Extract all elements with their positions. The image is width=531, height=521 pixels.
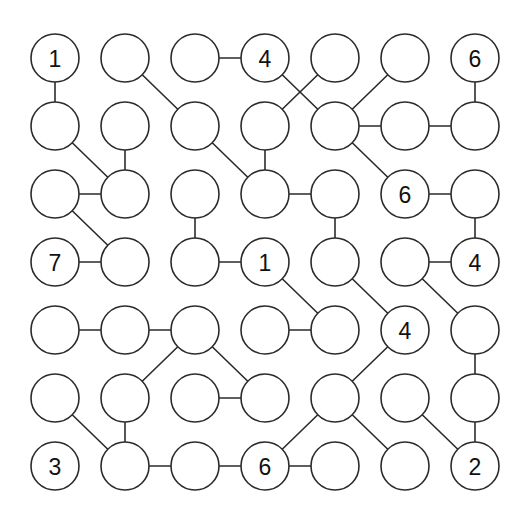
graph-node[interactable]: [101, 306, 149, 354]
node-circle[interactable]: [451, 102, 499, 150]
graph-node[interactable]: [171, 442, 219, 490]
graph-node[interactable]: [31, 374, 79, 422]
graph-node[interactable]: [241, 374, 289, 422]
graph-node[interactable]: 4: [241, 34, 289, 82]
graph-node[interactable]: [311, 34, 359, 82]
node-circle[interactable]: [311, 442, 359, 490]
node-circle[interactable]: [311, 34, 359, 82]
graph-node[interactable]: [311, 170, 359, 218]
node-circle[interactable]: [241, 306, 289, 354]
graph-node[interactable]: [171, 374, 219, 422]
graph-node[interactable]: [451, 170, 499, 218]
graph-node[interactable]: [171, 238, 219, 286]
graph-edge: [282, 415, 318, 450]
node-circle[interactable]: [31, 102, 79, 150]
graph-edge: [352, 143, 388, 178]
graph-node[interactable]: [381, 34, 429, 82]
graph-node[interactable]: 7: [31, 238, 79, 286]
graph-edge: [352, 279, 388, 314]
node-circle[interactable]: [31, 306, 79, 354]
graph-node[interactable]: 6: [381, 170, 429, 218]
graph-node[interactable]: [241, 306, 289, 354]
graph-edge: [72, 211, 108, 246]
graph-node[interactable]: [311, 374, 359, 422]
node-circle[interactable]: [171, 442, 219, 490]
graph-node[interactable]: [381, 374, 429, 422]
graph-diagram: 14667144362: [0, 0, 531, 521]
graph-node[interactable]: [101, 102, 149, 150]
graph-node[interactable]: [451, 102, 499, 150]
node-circle[interactable]: [451, 170, 499, 218]
graph-edge: [352, 415, 388, 450]
node-label: 1: [259, 250, 272, 276]
node-circle[interactable]: [101, 34, 149, 82]
node-circle[interactable]: [381, 238, 429, 286]
node-circle[interactable]: [451, 306, 499, 354]
graph-node[interactable]: [311, 238, 359, 286]
graph-node[interactable]: [101, 170, 149, 218]
node-circle[interactable]: [101, 238, 149, 286]
graph-node[interactable]: [451, 306, 499, 354]
graph-node[interactable]: [31, 306, 79, 354]
node-circle[interactable]: [311, 374, 359, 422]
graph-node[interactable]: [381, 442, 429, 490]
node-circle[interactable]: [31, 374, 79, 422]
node-circle[interactable]: [311, 170, 359, 218]
graph-edge: [212, 143, 248, 178]
node-circle[interactable]: [171, 238, 219, 286]
graph-node[interactable]: [241, 102, 289, 150]
node-circle[interactable]: [101, 306, 149, 354]
node-circle[interactable]: [381, 34, 429, 82]
graph-edge: [282, 279, 318, 314]
graph-node[interactable]: 2: [451, 442, 499, 490]
node-circle[interactable]: [381, 442, 429, 490]
node-label: 4: [469, 250, 482, 276]
node-circle[interactable]: [101, 442, 149, 490]
node-circle[interactable]: [381, 102, 429, 150]
graph-node[interactable]: [31, 170, 79, 218]
node-circle[interactable]: [171, 34, 219, 82]
graph-node[interactable]: [311, 102, 359, 150]
node-circle[interactable]: [101, 102, 149, 150]
graph-node[interactable]: 3: [31, 442, 79, 490]
node-circle[interactable]: [241, 102, 289, 150]
node-circle[interactable]: [241, 374, 289, 422]
graph-node[interactable]: [171, 102, 219, 150]
graph-node[interactable]: [381, 238, 429, 286]
node-circle[interactable]: [451, 374, 499, 422]
graph-node[interactable]: [381, 102, 429, 150]
graph-node[interactable]: [311, 306, 359, 354]
graph-node[interactable]: [171, 306, 219, 354]
graph-node[interactable]: [101, 238, 149, 286]
graph-node[interactable]: 6: [241, 442, 289, 490]
node-circle[interactable]: [31, 170, 79, 218]
node-label: 6: [259, 454, 272, 480]
node-label: 6: [469, 46, 482, 72]
graph-node[interactable]: [101, 374, 149, 422]
graph-node[interactable]: 6: [451, 34, 499, 82]
graph-node[interactable]: 1: [241, 238, 289, 286]
graph-node[interactable]: [101, 442, 149, 490]
node-circle[interactable]: [171, 102, 219, 150]
graph-node[interactable]: [31, 102, 79, 150]
puzzle-canvas: 14667144362: [0, 0, 531, 521]
graph-node[interactable]: [451, 374, 499, 422]
graph-node[interactable]: 1: [31, 34, 79, 82]
node-circle[interactable]: [171, 170, 219, 218]
graph-node[interactable]: [171, 34, 219, 82]
graph-node[interactable]: [171, 170, 219, 218]
node-circle[interactable]: [381, 374, 429, 422]
graph-node[interactable]: 4: [381, 306, 429, 354]
node-circle[interactable]: [101, 170, 149, 218]
graph-node[interactable]: [101, 34, 149, 82]
node-circle[interactable]: [241, 170, 289, 218]
graph-node[interactable]: [311, 442, 359, 490]
node-circle[interactable]: [101, 374, 149, 422]
node-circle[interactable]: [311, 102, 359, 150]
graph-node[interactable]: 4: [451, 238, 499, 286]
node-circle[interactable]: [171, 306, 219, 354]
node-circle[interactable]: [171, 374, 219, 422]
node-circle[interactable]: [311, 238, 359, 286]
node-circle[interactable]: [311, 306, 359, 354]
graph-node[interactable]: [241, 170, 289, 218]
